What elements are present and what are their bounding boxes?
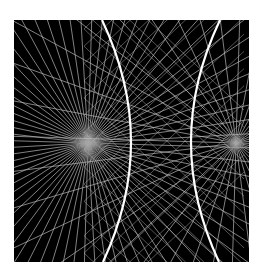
ray-left-focus — [88, 51, 249, 143]
ray-diagram — [14, 20, 249, 262]
figure-canvas — [14, 20, 249, 262]
cross-line — [84, 150, 244, 262]
ray-left-focus — [14, 143, 88, 235]
ray-left-focus — [65, 20, 88, 143]
right-focus-glow — [230, 137, 242, 149]
